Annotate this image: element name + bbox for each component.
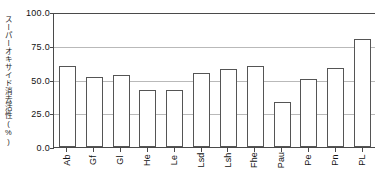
bar — [193, 73, 210, 147]
x-tick-label: Fhe — [247, 155, 261, 191]
x-tick-mark — [201, 148, 202, 152]
x-tick-label-text: Le — [169, 155, 179, 165]
x-tick-mark — [66, 148, 67, 152]
x-tick-label: Gl — [113, 155, 127, 191]
y-axis-tick-labels: 0.025.050.075.0100.0 — [4, 0, 50, 193]
bar — [354, 39, 371, 147]
x-tick-label-text: Gl — [115, 155, 125, 164]
x-tick-label-text: Pe — [303, 154, 313, 165]
x-tick-label: Lsd — [194, 155, 208, 191]
x-tick-label: Pau — [274, 155, 288, 191]
y-tick-label: 0.0 — [6, 143, 50, 153]
x-tick-label-text: Pau — [276, 152, 286, 169]
y-tick-mark — [50, 148, 54, 149]
x-tick-label: He — [140, 155, 154, 191]
x-tick-label-text: Ab — [61, 154, 71, 165]
bar — [86, 77, 103, 147]
y-tick-label: 75.0 — [6, 42, 50, 52]
x-tick-label-text: Lsd — [196, 152, 206, 167]
x-tick-label-text: Gf — [88, 155, 98, 165]
bar — [139, 90, 156, 147]
x-tick-label-text: Lsh — [222, 152, 232, 167]
x-tick-mark — [362, 148, 363, 152]
y-tick-label: 50.0 — [6, 76, 50, 86]
y-tick-label: 25.0 — [6, 109, 50, 119]
x-tick-mark — [308, 148, 309, 152]
x-tick-label: Le — [167, 155, 181, 191]
bar-chart: スーパーオキサイド消去活性(%) 0.025.050.075.0100.0 Ab… — [0, 0, 382, 193]
bar — [166, 90, 183, 147]
x-tick-mark — [174, 148, 175, 152]
x-tick-mark — [93, 148, 94, 152]
x-tick-label: PL — [355, 155, 369, 191]
bar-series — [54, 13, 375, 147]
bar — [220, 69, 237, 147]
x-tick-mark — [120, 148, 121, 152]
x-tick-label: Pn — [328, 155, 342, 191]
x-tick-label-text: Pn — [330, 154, 340, 165]
x-tick-label: Pe — [301, 155, 315, 191]
bar — [300, 79, 317, 147]
x-tick-label-text: He — [142, 154, 152, 166]
plot-area — [53, 13, 375, 148]
x-tick-mark — [227, 148, 228, 152]
x-tick-label-text: PL — [357, 154, 367, 165]
x-tick-label: Gf — [86, 155, 100, 191]
x-tick-mark — [147, 148, 148, 152]
bar — [113, 75, 130, 147]
bar — [247, 66, 264, 147]
bar — [274, 102, 291, 147]
x-tick-mark — [335, 148, 336, 152]
x-tick-label: Lsh — [220, 155, 234, 191]
bar — [327, 68, 344, 147]
y-tick-label: 100.0 — [6, 8, 50, 18]
x-tick-label: Ab — [59, 155, 73, 191]
bar — [59, 66, 76, 147]
x-tick-label-text: Fhe — [249, 152, 259, 168]
